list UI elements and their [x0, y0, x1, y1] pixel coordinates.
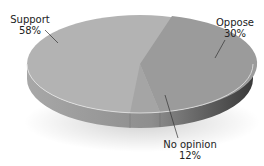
label-oppose-name: Oppose [212, 17, 258, 28]
label-oppose-value: 30% [212, 28, 258, 39]
label-support-value: 58% [6, 25, 54, 36]
label-support-name: Support [6, 14, 54, 25]
label-no-opinion-name: No opinion [154, 139, 226, 150]
label-no-opinion-value: 12% [154, 150, 226, 161]
label-no-opinion: No opinion 12% [154, 139, 226, 161]
label-oppose: Oppose 30% [212, 17, 258, 39]
label-support: Support 58% [6, 14, 54, 36]
